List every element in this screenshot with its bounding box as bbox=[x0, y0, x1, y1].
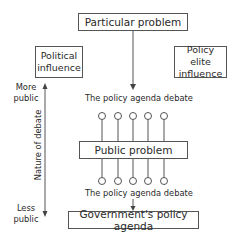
policy-elite-influence-box: Policy elite influence bbox=[174, 46, 227, 78]
more-public-line2: public bbox=[12, 93, 40, 104]
government-policy-agenda-box: Government's policy agenda bbox=[68, 211, 199, 229]
top-connectors bbox=[99, 113, 168, 142]
political-influence-box: Political influence bbox=[35, 46, 83, 78]
public-problem-label: Public problem bbox=[95, 144, 173, 156]
more-public-line1: More bbox=[12, 82, 40, 93]
policy-elite-influence-line1: Policy elite bbox=[175, 44, 226, 68]
political-influence-line2: influence bbox=[37, 62, 81, 74]
government-policy-agenda-label: Government's policy agenda bbox=[69, 208, 198, 232]
bottom-connectors bbox=[99, 158, 168, 185]
particular-problem-box: Particular problem bbox=[78, 13, 188, 31]
nature-of-debate-label: Nature of debate bbox=[33, 107, 43, 183]
policy-agenda-debate-top: The policy agenda debate bbox=[85, 93, 181, 103]
political-influence-line1: Political bbox=[41, 50, 78, 62]
more-public-label: More public bbox=[12, 82, 40, 104]
policy-agenda-debate-bottom: The policy agenda debate bbox=[85, 188, 181, 198]
particular-problem-label: Particular problem bbox=[85, 16, 182, 28]
less-public-label: Less public bbox=[12, 203, 40, 225]
policy-elite-influence-line2: influence bbox=[179, 68, 223, 80]
less-public-line1: Less bbox=[12, 203, 40, 214]
public-problem-box: Public problem bbox=[79, 141, 188, 159]
less-public-line2: public bbox=[12, 214, 40, 225]
